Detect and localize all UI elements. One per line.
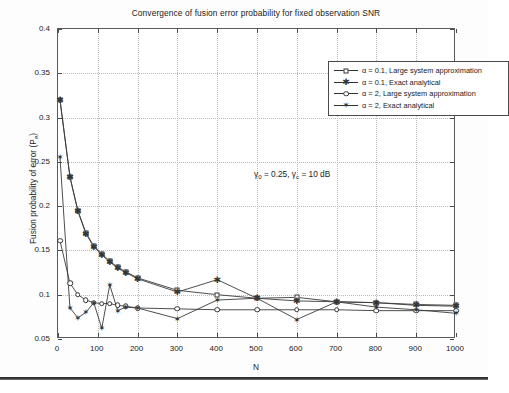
legend-marker-sample: [333, 65, 359, 76]
chart-title: Convergence of fusion error probability …: [57, 8, 455, 18]
legend-item: α = 0.1, Large system approximation: [333, 65, 504, 77]
hexagram-icon: ✶: [133, 304, 142, 313]
y-axis-title-subscript: e: [32, 136, 39, 139]
annotation-tail: = 10 dB: [299, 169, 330, 179]
x-tick-label: 900: [409, 344, 422, 353]
hexagram-icon: ✶: [173, 314, 182, 323]
asterisk-icon: ✱: [342, 78, 351, 87]
asterisk-icon: ✱: [292, 296, 301, 305]
hexagram-icon: ✶: [332, 297, 341, 306]
circle-icon: [254, 307, 260, 313]
y-axis-title-main: Fusion probability of error (P: [28, 139, 38, 244]
x-tick-label: 1000: [446, 344, 464, 353]
circle-icon: [57, 238, 63, 244]
hexagram-icon: ✶: [81, 308, 90, 317]
series-line: [60, 100, 456, 305]
hexagram-icon: ✶: [105, 280, 114, 289]
circle-icon: [214, 307, 220, 313]
legend-item: ✶α = 2, Exact analytical: [333, 100, 504, 112]
circle-icon: [294, 307, 300, 313]
circle-icon: [343, 91, 349, 97]
circle-icon: [107, 301, 113, 307]
asterisk-icon: ✱: [65, 172, 74, 181]
asterisk-icon: ✱: [81, 229, 90, 238]
y-axis-title-tail: ): [28, 133, 38, 136]
asterisk-icon: ✱: [213, 275, 222, 284]
tick-mark-y: [450, 339, 454, 340]
legend-item-label: α = 0.1, Exact analytical: [359, 78, 440, 87]
legend-marker-sample: ✱: [333, 77, 359, 88]
hexagram-icon: ✶: [89, 298, 98, 307]
tick-mark-y: [58, 339, 62, 340]
hexagram-icon: ✶: [253, 294, 262, 303]
hexagram-icon: ✶: [97, 324, 106, 333]
x-tick-label: 700: [329, 344, 342, 353]
hexagram-icon: ✶: [452, 309, 461, 318]
legend-item-label: α = 0.1, Large system approximation: [359, 66, 482, 75]
plot-area: ✱✱✱✱✱✱✱✱✱✱✱✱✱✱✱✱✱✱✶✶✶✶✶✶✶✶✶✶✶✶✶✶✶✶✶✶ γ0 …: [57, 28, 455, 338]
parameter-annotation: γ0 = 0.25, γc = 10 dB: [254, 169, 330, 180]
hexagram-icon: ✶: [372, 303, 381, 312]
hexagram-icon: ✶: [292, 315, 301, 324]
legend-item-label: α = 2, Large system approximation: [359, 89, 476, 98]
hexagram-icon: ✶: [65, 304, 74, 313]
series-line: [60, 100, 456, 306]
asterisk-icon: ✱: [73, 207, 82, 216]
circle-icon: [175, 306, 181, 312]
x-axis-title: N: [57, 362, 455, 372]
square-icon: [344, 68, 349, 73]
legend-item-label: α = 2, Exact analytical: [359, 101, 434, 110]
x-tick-label: 300: [170, 344, 183, 353]
hexagram-icon: ✶: [213, 296, 222, 305]
hexagram-icon: ✶: [342, 101, 351, 110]
asterisk-icon: ✱: [133, 274, 142, 283]
hexagram-icon: ✶: [55, 153, 64, 162]
x-tick-label: 400: [210, 344, 223, 353]
page-bottom-margin: [0, 380, 488, 393]
tick-mark-x: [456, 29, 457, 33]
x-tick-label: 100: [90, 344, 103, 353]
x-tick-label: 500: [249, 344, 262, 353]
chart-legend: α = 0.1, Large system approximation✱α = …: [328, 61, 509, 116]
hexagram-icon: ✶: [412, 305, 421, 314]
circle-icon: [334, 307, 340, 313]
asterisk-icon: ✱: [121, 268, 130, 277]
x-tick-label: 200: [130, 344, 143, 353]
legend-marker-sample: [333, 88, 359, 99]
y-tick-label: 0.05: [8, 334, 50, 343]
annotation-mid: = 0.25,: [262, 169, 292, 179]
x-tick-label: 600: [289, 344, 302, 353]
hexagram-icon: ✶: [121, 303, 130, 312]
y-axis-title: Fusion probability of error (Pe): [28, 59, 39, 319]
asterisk-icon: ✱: [173, 288, 182, 297]
asterisk-icon: ✱: [55, 95, 64, 104]
legend-item: α = 2, Large system approximation: [333, 88, 504, 100]
y-tick-label: 0.4: [8, 24, 50, 33]
circle-icon: [83, 297, 89, 303]
circle-icon: [75, 292, 81, 298]
tick-mark-x: [456, 333, 457, 337]
chart-figure: Convergence of fusion error probability …: [0, 0, 488, 377]
legend-item: ✱α = 0.1, Exact analytical: [333, 77, 504, 89]
circle-icon: [67, 280, 73, 286]
circle-icon: [99, 301, 105, 307]
legend-marker-sample: ✶: [333, 100, 359, 111]
x-tick-label: 800: [369, 344, 382, 353]
x-tick-label: 0: [55, 344, 59, 353]
